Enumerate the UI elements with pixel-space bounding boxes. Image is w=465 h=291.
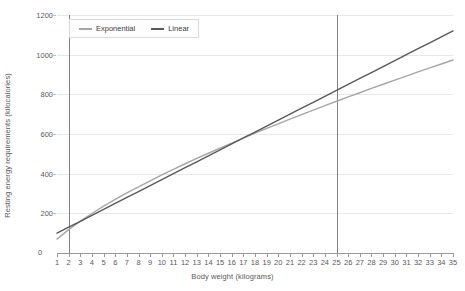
x-tick-mark — [197, 253, 198, 257]
series-line-linear — [57, 31, 453, 233]
y-tick-mark — [51, 15, 56, 16]
x-tick-mark — [208, 253, 209, 257]
y-tick-mark — [51, 134, 56, 135]
x-tick-mark — [69, 253, 70, 257]
x-tick-mark — [406, 253, 407, 257]
x-tick-mark — [383, 253, 384, 257]
x-tick-mark — [92, 253, 93, 257]
x-tick-mark — [325, 253, 326, 257]
x-tick-mark — [232, 253, 233, 257]
x-tick-mark — [302, 253, 303, 257]
y-tick-label: 600 — [13, 130, 53, 139]
origin-zero-label: 0 — [38, 248, 42, 257]
x-tick-mark — [313, 253, 314, 257]
legend-label: Exponential — [96, 24, 135, 33]
x-tick-mark — [371, 253, 372, 257]
x-tick-mark — [430, 253, 431, 257]
legend-line-swatch-icon — [151, 28, 164, 30]
x-tick-mark — [348, 253, 349, 257]
x-tick-mark — [185, 253, 186, 257]
y-axis-title: Resting energy requirements (kilocalorie… — [0, 0, 14, 291]
x-tick-label: 35 — [443, 258, 463, 267]
series-lines — [57, 15, 453, 253]
x-tick-mark — [337, 253, 338, 257]
y-tick-mark — [51, 174, 56, 175]
chart-container: Resting energy requirements (kilocalorie… — [0, 0, 465, 291]
legend-label: Linear — [168, 24, 189, 33]
plot-area — [57, 15, 453, 253]
x-tick-mark — [139, 253, 140, 257]
x-tick-mark — [220, 253, 221, 257]
x-tick-mark — [418, 253, 419, 257]
y-tick-label: 800 — [13, 90, 53, 99]
x-tick-mark — [57, 253, 58, 257]
x-axis-title: Body weight (kilograms) — [0, 272, 465, 281]
y-tick-label: 200 — [13, 209, 53, 218]
x-tick-mark — [127, 253, 128, 257]
x-tick-mark — [360, 253, 361, 257]
y-tick-mark — [51, 55, 56, 56]
x-tick-mark — [453, 253, 454, 257]
legend: ExponentialLinear — [69, 19, 199, 38]
x-tick-mark — [441, 253, 442, 257]
legend-entry-exponential[interactable]: Exponential — [79, 24, 135, 33]
legend-line-swatch-icon — [79, 28, 92, 30]
x-tick-mark — [80, 253, 81, 257]
x-tick-mark — [395, 253, 396, 257]
x-tick-mark — [173, 253, 174, 257]
x-tick-mark — [150, 253, 151, 257]
x-tick-mark — [278, 253, 279, 257]
y-tick-label: 1200 — [13, 11, 53, 20]
y-tick-mark — [51, 213, 56, 214]
x-tick-mark — [255, 253, 256, 257]
y-tick-mark — [51, 94, 56, 95]
y-tick-label: 1000 — [13, 50, 53, 59]
x-tick-mark — [104, 253, 105, 257]
y-tick-label: 400 — [13, 169, 53, 178]
legend-entry-linear[interactable]: Linear — [151, 24, 189, 33]
x-tick-mark — [162, 253, 163, 257]
series-line-exponential — [57, 60, 453, 239]
x-tick-mark — [267, 253, 268, 257]
x-tick-mark — [290, 253, 291, 257]
x-tick-mark — [115, 253, 116, 257]
x-tick-mark — [243, 253, 244, 257]
